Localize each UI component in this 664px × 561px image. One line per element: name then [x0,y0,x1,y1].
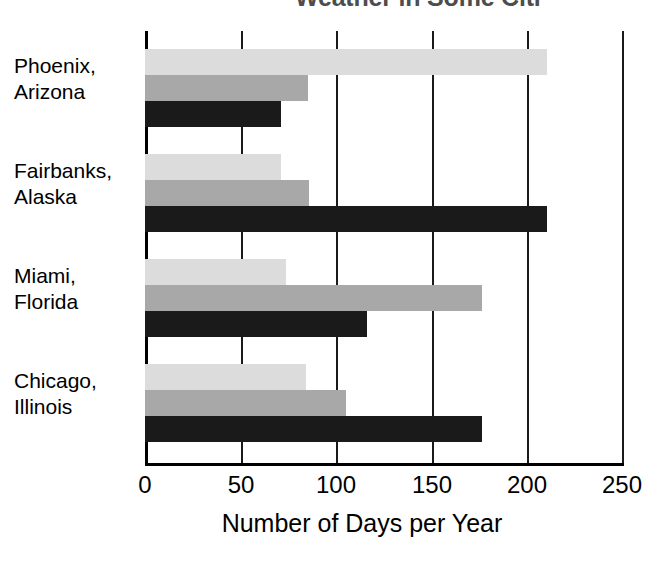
category-label-phoenix: Phoenix, Arizona [14,53,140,105]
bar-phoenix-series-3 [145,101,281,127]
xtick-label-50: 50 [211,470,271,500]
bar-miami-series-1 [145,259,286,285]
bar-group-fairbanks [145,154,623,232]
xtick-label-0: 0 [115,470,175,500]
category-label-line1: Phoenix, [14,54,96,77]
bar-miami-series-2 [145,285,482,311]
xtick-label-200: 200 [497,470,557,500]
category-label-line1: Fairbanks, [14,159,112,182]
bar-fairbanks-series-1 [145,154,281,180]
xtick-label-250: 250 [592,470,652,500]
category-label-line2: Alaska [14,184,140,210]
category-label-line2: Illinois [14,394,140,420]
bar-fairbanks-series-2 [145,180,309,206]
bar-fairbanks-series-3 [145,206,547,232]
category-label-chicago: Chicago, Illinois [14,368,140,420]
category-label-fairbanks: Fairbanks, Alaska [14,158,140,210]
x-axis-title: Number of Days per Year [0,509,664,538]
category-label-line1: Miami, [14,264,76,287]
bar-group-chicago [145,364,623,442]
bar-phoenix-series-2 [145,75,308,101]
category-label-line2: Florida [14,289,140,315]
bar-group-miami [145,259,623,337]
category-label-line2: Arizona [14,79,140,105]
bar-chicago-series-3 [145,416,482,442]
chart-title: Weather in Some Citi [295,0,541,12]
plot-area [145,31,623,463]
bar-miami-series-3 [145,311,367,337]
x-axis-line [145,463,624,466]
xtick-label-150: 150 [402,470,462,500]
category-label-line1: Chicago, [14,369,97,392]
bar-phoenix-series-1 [145,49,547,75]
xtick-label-100: 100 [306,470,366,500]
bar-chicago-series-1 [145,364,306,390]
bar-group-phoenix [145,49,623,127]
bar-chicago-series-2 [145,390,346,416]
category-label-miami: Miami, Florida [14,263,140,315]
